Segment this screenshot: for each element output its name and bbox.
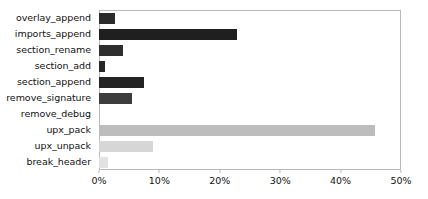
bar-chart: overlay_appendimports_appendsection_rena… <box>0 0 428 199</box>
x-axis-tick-mark <box>280 170 281 173</box>
y-axis-tick: upx_pack <box>0 122 95 138</box>
x-axis-tick-label: 50% <box>390 176 411 186</box>
y-axis-tick-label: break_header <box>26 157 91 167</box>
y-axis-tick: remove_signature <box>0 90 95 106</box>
y-axis-tick: imports_append <box>0 26 95 42</box>
y-axis-tick-label: overlay_append <box>16 13 91 23</box>
y-axis-tick: remove_debug <box>0 106 95 122</box>
y-axis-tick: break_header <box>0 154 95 170</box>
y-axis-tick-label: remove_debug <box>21 109 91 119</box>
x-axis: 0%10%20%30%40%50% <box>99 170 401 194</box>
y-axis-tick-label: section_rename <box>16 45 91 55</box>
x-axis-tick-mark <box>219 170 220 173</box>
bar[interactable] <box>99 29 237 40</box>
bar[interactable] <box>99 45 123 56</box>
x-axis-tick: 20% <box>209 170 230 186</box>
bar[interactable] <box>99 157 108 168</box>
y-axis-tick: section_add <box>0 58 95 74</box>
x-axis-tick: 0% <box>91 170 106 186</box>
y-axis-tick-label: upx_pack <box>46 125 91 135</box>
y-axis-tick-label: remove_signature <box>6 93 91 103</box>
y-axis-tick: section_append <box>0 74 95 90</box>
x-axis-tick-mark <box>159 170 160 173</box>
x-axis-tick-label: 30% <box>270 176 291 186</box>
x-axis-tick-label: 0% <box>91 176 106 186</box>
y-axis-tick: overlay_append <box>0 10 95 26</box>
bar[interactable] <box>99 77 144 88</box>
y-axis-tick-label: imports_append <box>15 29 91 39</box>
bar[interactable] <box>99 141 153 152</box>
bar[interactable] <box>99 13 115 24</box>
bar[interactable] <box>99 93 132 104</box>
y-axis-tick-label: upx_unpack <box>34 141 91 151</box>
x-axis-tick-label: 40% <box>330 176 351 186</box>
y-axis-tick-label: section_append <box>17 77 91 87</box>
y-axis-tick-label: section_add <box>35 61 91 71</box>
bar[interactable] <box>99 125 375 136</box>
x-axis-tick: 40% <box>330 170 351 186</box>
x-axis-tick: 30% <box>270 170 291 186</box>
y-axis-tick: upx_unpack <box>0 138 95 154</box>
y-axis-tick: section_rename <box>0 42 95 58</box>
x-axis-tick-mark <box>401 170 402 173</box>
y-axis-labels: overlay_appendimports_appendsection_rena… <box>0 10 95 170</box>
x-axis-tick-label: 20% <box>209 176 230 186</box>
x-axis-tick: 50% <box>390 170 411 186</box>
bar[interactable] <box>99 61 105 72</box>
x-axis-tick-mark <box>340 170 341 173</box>
x-axis-tick-mark <box>98 170 99 173</box>
x-axis-tick-label: 10% <box>149 176 170 186</box>
x-axis-tick: 10% <box>149 170 170 186</box>
